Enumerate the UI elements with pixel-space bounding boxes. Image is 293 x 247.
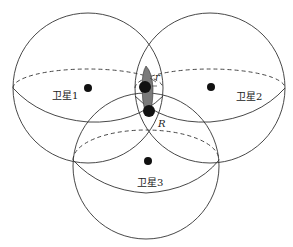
small-r-label: r bbox=[155, 71, 161, 82]
intersection-point-upper bbox=[139, 81, 151, 93]
satellite-1-label: 卫星1 bbox=[52, 90, 78, 101]
satellite-2-center-dot bbox=[207, 83, 215, 91]
big-r-label: R bbox=[157, 118, 166, 129]
satellite-3-equator-back bbox=[73, 130, 219, 160]
satellite-3-label: 卫星3 bbox=[137, 177, 163, 188]
satellite-3-center-dot bbox=[144, 157, 152, 165]
satellite-1-center-dot bbox=[84, 84, 92, 92]
satellite-positioning-diagram: 卫星1 卫星2 卫星3 r R bbox=[0, 0, 293, 247]
intersection-point-lower bbox=[143, 105, 155, 117]
satellite-2-label: 卫星2 bbox=[236, 91, 262, 102]
